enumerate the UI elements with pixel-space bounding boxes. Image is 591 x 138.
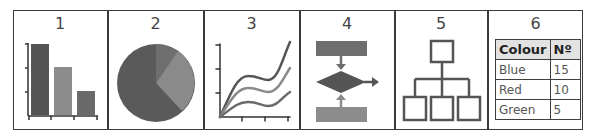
- hierarchy-icon: [404, 41, 480, 120]
- cell-number: 5: [550, 100, 580, 120]
- table-header-row: Colour Nº: [496, 40, 581, 60]
- flowchart-icon: [316, 41, 379, 122]
- pie-chart-icon: [117, 44, 195, 122]
- line-chart-icon: [216, 42, 290, 121]
- cell-colour: Blue: [496, 60, 551, 80]
- table-row: Green 5: [496, 100, 581, 120]
- cell-number: 10: [550, 80, 580, 100]
- table-row: Red 10: [496, 80, 581, 100]
- cell-colour: Red: [496, 80, 551, 100]
- cell-number: 15: [550, 60, 580, 80]
- header-colour: Colour: [496, 40, 551, 60]
- cell-colour: Green: [496, 100, 551, 120]
- table-row: Blue 15: [496, 60, 581, 80]
- bar-chart-icon: [25, 43, 98, 120]
- header-number: Nº: [550, 40, 580, 60]
- colour-count-table: Colour Nº Blue 15 Red 10 Green 5: [495, 39, 581, 120]
